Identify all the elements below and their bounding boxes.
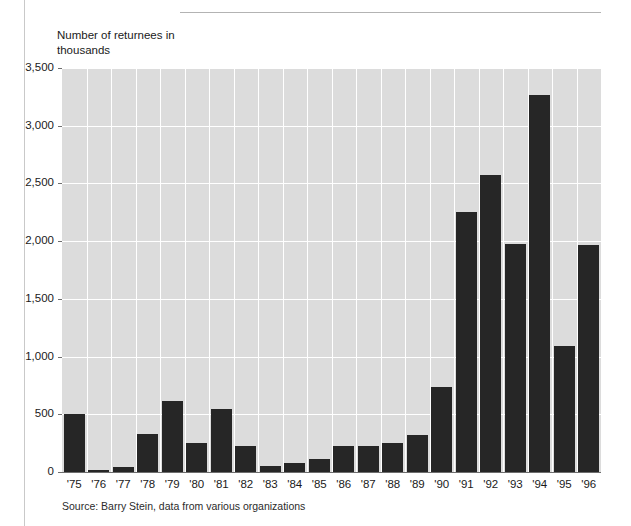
x-tick-label: '83 [258, 478, 283, 490]
y-tick-label: 500 [6, 408, 54, 420]
y-tick-mark [58, 414, 62, 415]
x-tick-label: '79 [160, 478, 185, 490]
bar-90 [431, 387, 452, 472]
y-tick-mark [58, 68, 62, 69]
x-tick-label: '90 [430, 478, 455, 490]
y-tick-label: 2,500 [6, 177, 54, 189]
y-tick-label: 1,500 [6, 293, 54, 305]
x-axis-line [62, 472, 601, 473]
y-tick-mark [58, 472, 62, 473]
x-tick-label: '84 [283, 478, 308, 490]
y-axis-title: Number of returnees in thousands [57, 28, 217, 57]
x-tick-label: '82 [234, 478, 259, 490]
bar-81 [211, 409, 232, 472]
bar-84 [284, 463, 305, 472]
x-tick-label: '80 [185, 478, 210, 490]
x-tick-label: '91 [454, 478, 479, 490]
bar-79 [162, 401, 183, 472]
y-tick-label: 3,000 [6, 120, 54, 132]
bar-82 [235, 446, 256, 472]
y-tick-mark [58, 126, 62, 127]
bar-93 [505, 244, 526, 472]
x-tick-label: '92 [479, 478, 504, 490]
x-tick-label: '94 [528, 478, 553, 490]
x-tick-label: '89 [405, 478, 430, 490]
y-tick-label: 2,000 [6, 235, 54, 247]
y-tick-label: 3,500 [6, 62, 54, 74]
source-note: Source: Barry Stein, data from various o… [62, 500, 305, 513]
bar-89 [407, 435, 428, 473]
x-tick-label: '81 [209, 478, 234, 490]
bar-96 [578, 245, 599, 472]
y-tick-mark [58, 357, 62, 358]
x-tick-label: '87 [356, 478, 381, 490]
x-tick-label: '75 [62, 478, 87, 490]
bar-85 [309, 459, 330, 472]
y-tick-label: 1,000 [6, 351, 54, 363]
y-tick-mark [58, 241, 62, 242]
bar-chart: Number of returnees in thousands 05001,0… [0, 0, 631, 526]
x-tick-label: '93 [503, 478, 528, 490]
bar-95 [554, 346, 575, 472]
x-tick-label: '76 [87, 478, 112, 490]
bar-80 [186, 443, 207, 472]
x-tick-label: '88 [381, 478, 406, 490]
bar-78 [137, 434, 158, 472]
x-tick-label: '78 [136, 478, 161, 490]
bar-series [62, 68, 601, 472]
y-tick-label: 0 [6, 466, 54, 478]
x-tick-label: '85 [307, 478, 332, 490]
x-tick-label: '96 [577, 478, 602, 490]
y-tick-mark [58, 183, 62, 184]
x-tick-label: '77 [111, 478, 136, 490]
bar-87 [358, 446, 379, 472]
bar-75 [64, 414, 85, 472]
x-tick-label: '86 [332, 478, 357, 490]
bar-94 [529, 95, 550, 472]
bar-92 [480, 175, 501, 472]
y-tick-mark [58, 299, 62, 300]
bar-91 [456, 212, 477, 472]
bar-86 [333, 446, 354, 472]
bar-88 [382, 443, 403, 472]
plot-area [62, 68, 601, 472]
x-tick-label: '95 [552, 478, 577, 490]
